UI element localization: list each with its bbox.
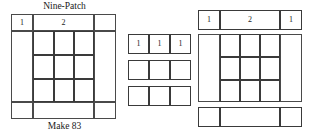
mid-r1c1 <box>128 34 149 54</box>
right-patch-r1c2 <box>240 34 260 57</box>
mid-r3c1 <box>128 86 149 106</box>
pieced-strip-units-group: 1 1 1 <box>125 0 195 136</box>
diagram-canvas: Nine-Patch 1 2 Make 83 1 <box>0 0 311 136</box>
left-patch-r1c1 <box>33 31 54 55</box>
mid-r3c2 <box>149 86 170 106</box>
left-patch-r3c1 <box>33 79 54 102</box>
left-patch-r2c2 <box>54 55 74 79</box>
nine-patch-title: Nine-Patch <box>9 1 120 12</box>
mid-r1c3 <box>170 34 191 54</box>
mid-r2c3 <box>170 60 191 80</box>
left-top-right-corner-cell <box>94 14 116 31</box>
left-patch-r1c2 <box>54 31 74 55</box>
left-bottom-left-corner-cell <box>11 102 33 119</box>
left-side-sash-left <box>11 31 33 102</box>
right-patch-r3c2 <box>240 80 260 102</box>
right-patch-r3c1 <box>220 80 240 102</box>
left-side-sash-right <box>94 31 116 102</box>
left-bottom-center-cell <box>33 102 94 119</box>
right-top-right-cell <box>280 10 302 30</box>
left-top-left-corner-cell <box>11 14 33 31</box>
left-patch-r3c2 <box>54 79 74 102</box>
mid-r2c1 <box>128 60 149 80</box>
right-patch-r2c1 <box>220 57 240 80</box>
left-patch-r3c3 <box>74 79 94 102</box>
right-body-sash-left <box>198 34 220 102</box>
assembled-block-group: 1 2 1 <box>195 0 311 136</box>
right-top-left-cell <box>198 10 220 30</box>
right-patch-r2c3 <box>260 57 280 80</box>
right-bottom-left-cell <box>198 107 220 127</box>
left-bottom-right-corner-cell <box>94 102 116 119</box>
right-patch-r3c3 <box>260 80 280 102</box>
left-patch-r2c1 <box>33 55 54 79</box>
right-patch-r1c3 <box>260 34 280 57</box>
left-patch-r1c3 <box>74 31 94 55</box>
right-top-center-cell <box>220 10 280 30</box>
mid-r3c3 <box>170 86 191 106</box>
left-patch-r2c3 <box>74 55 94 79</box>
left-top-center-cell <box>33 14 94 31</box>
right-patch-r1c1 <box>220 34 240 57</box>
right-bottom-center-cell <box>220 107 280 127</box>
mid-r1c2 <box>149 34 170 54</box>
nine-patch-caption: Make 83 <box>9 121 120 132</box>
nine-patch-block-group: Nine-Patch 1 2 Make 83 <box>0 0 125 136</box>
right-bottom-right-cell <box>280 107 302 127</box>
mid-r2c2 <box>149 60 170 80</box>
right-patch-r2c2 <box>240 57 260 80</box>
right-body-sash-right <box>280 34 302 102</box>
